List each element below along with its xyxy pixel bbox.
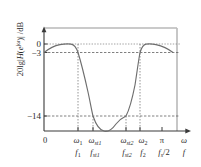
x-tick-label-omega1: ω1: [73, 135, 82, 146]
x-tick-label-omega-st2: ωst2: [120, 135, 133, 146]
x-tick-label-fs-half: fs/2: [158, 147, 169, 158]
x-axis-title-f: f: [183, 147, 187, 157]
y-tick-label-minus14: −14: [27, 111, 42, 121]
x-axis-arrow: [185, 129, 191, 134]
axes: [42, 27, 191, 134]
y-axis-label-h: H: [15, 53, 25, 59]
y-axis-label-prefix: 20lg|: [15, 59, 25, 76]
x-tick-label-pi: π: [160, 135, 165, 145]
x-tick-label-f-st1: fst1: [90, 147, 99, 158]
x-tick-label-zero: 0: [43, 135, 47, 145]
y-axis-label: 20lg|H(ejω)| /dB: [15, 1, 25, 97]
chart-svg: 0 −3 −14 0 ω1 ωst1 ωst2 ω2 π ω f1: [0, 0, 201, 167]
x-tick-labels-omega: 0 ω1 ωst1 ωst2 ω2 π ω: [43, 135, 187, 146]
x-tick-labels-frequency: f1 fst1 fst2 f2 fs/2 f: [75, 147, 187, 158]
y-axis-label-close: )|: [15, 36, 25, 41]
y-tick-label-minus3: −3: [31, 48, 41, 58]
grid-lines: [44, 44, 180, 116]
x-tick-label-omega2: ω2: [138, 135, 147, 146]
response-curve: [44, 44, 173, 131]
x-tick-label-omega-st1: ωst1: [88, 135, 101, 146]
x-tick-label-f1: f1: [75, 147, 80, 158]
y-axis-label-unit: /dB: [15, 22, 25, 36]
x-axis-ticks: [78, 127, 162, 131]
x-axis-title-omega: ω: [181, 135, 187, 145]
y-tick-labels: 0 −3 −14: [27, 39, 42, 121]
chart-container: 20lg|H(ejω)| /dB: [0, 0, 201, 167]
x-tick-label-f2: f2: [140, 147, 145, 158]
y-axis-label-e: e: [15, 47, 25, 51]
y-axis-label-open: (: [15, 50, 25, 53]
x-tick-label-f-st2: fst2: [122, 147, 131, 158]
y-axis-label-exponent: jω: [15, 41, 21, 47]
plot-frame: [44, 28, 177, 131]
